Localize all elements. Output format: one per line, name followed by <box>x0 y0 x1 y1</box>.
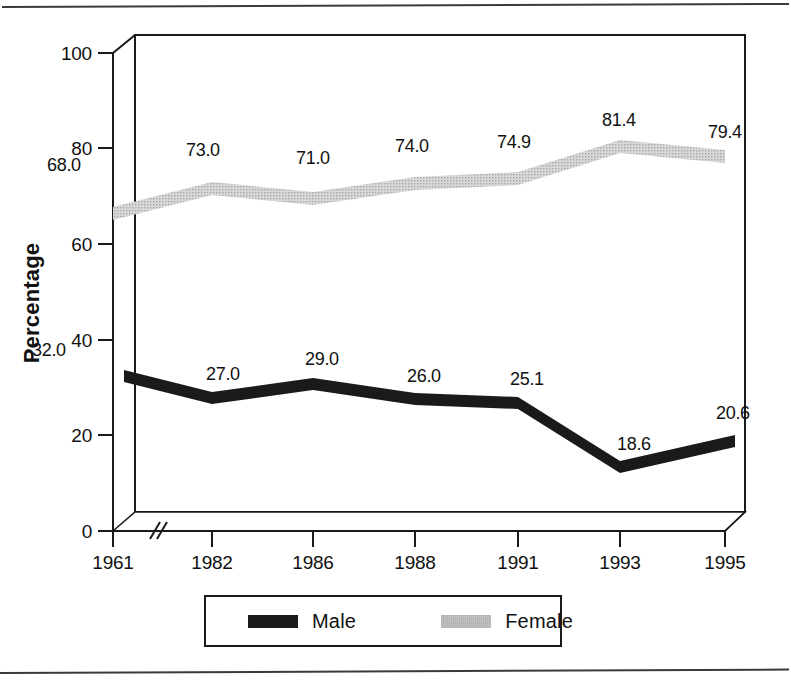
value-label-female-1961: 68.0 <box>47 155 81 176</box>
y-tick-marks <box>98 53 113 531</box>
legend-item-female[interactable]: Female <box>441 610 573 633</box>
value-label-male-1982: 27.0 <box>206 364 240 385</box>
value-label-female-1982: 73.0 <box>186 140 220 161</box>
legend-label-female: Female <box>505 610 573 633</box>
chart-legend: Male Female <box>204 595 562 647</box>
y-tick-label-20: 20 <box>30 425 92 447</box>
chart-canvas <box>0 0 791 688</box>
plot-back-wall <box>135 35 745 512</box>
x-tick-label-1961: 1961 <box>68 552 158 574</box>
value-label-female-1991: 74.9 <box>497 132 531 153</box>
x-tick-label-1991: 1991 <box>473 552 563 574</box>
x-tick-label-1986: 1986 <box>268 552 358 574</box>
value-label-male-1986: 29.0 <box>305 349 339 370</box>
value-label-female-1986: 71.0 <box>296 148 330 169</box>
value-label-female-1993: 81.4 <box>602 110 636 131</box>
value-label-male-1995: 20.6 <box>716 403 750 424</box>
value-label-female-1988: 74.0 <box>395 136 429 157</box>
legend-label-male: Male <box>312 610 356 633</box>
value-label-female-1995: 79.4 <box>708 122 742 143</box>
legend-swatch-female-icon <box>441 615 491 628</box>
legend-swatch-male-icon <box>248 615 298 628</box>
x-tick-label-1982: 1982 <box>167 552 257 574</box>
legend-item-male[interactable]: Male <box>248 610 356 633</box>
value-label-male-1988: 26.0 <box>407 366 441 387</box>
depth-edge-top-left <box>113 35 135 53</box>
value-label-male-1993: 18.6 <box>617 434 651 455</box>
x-tick-label-1995: 1995 <box>680 552 770 574</box>
value-label-male-1961: 32.0 <box>32 340 66 361</box>
figure-root: Percentage 100 80 60 40 20 0 1961 1982 1… <box>0 0 791 688</box>
y-tick-label-0: 0 <box>30 521 92 543</box>
x-tick-label-1988: 1988 <box>370 552 460 574</box>
y-tick-label-100: 100 <box>30 43 92 65</box>
plot-floor <box>113 512 745 531</box>
x-tick-label-1993: 1993 <box>575 552 665 574</box>
value-label-male-1991: 25.1 <box>510 369 544 390</box>
y-tick-label-60: 60 <box>30 234 92 256</box>
x-tick-marks <box>113 531 725 547</box>
